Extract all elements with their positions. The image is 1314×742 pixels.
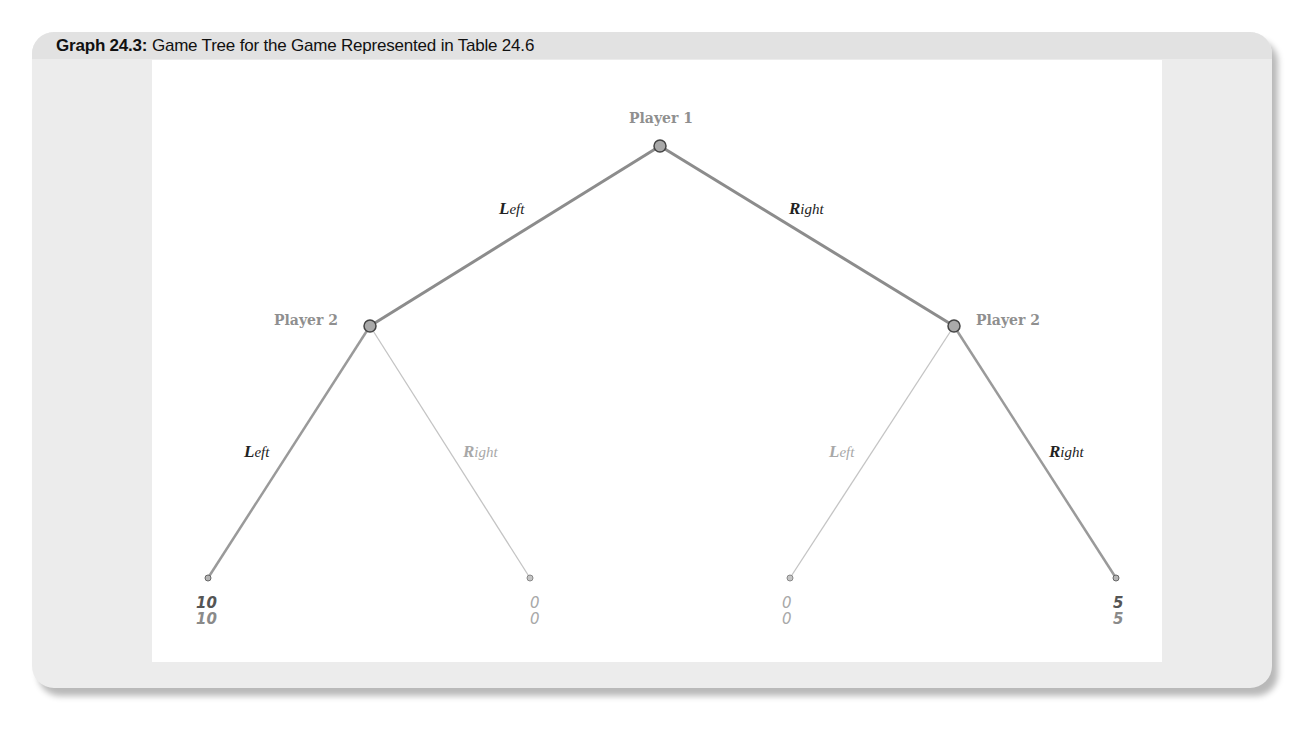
- move-rest: ight: [800, 201, 823, 217]
- payoff-player2: 0: [530, 611, 540, 627]
- branch-right-left: [790, 326, 954, 578]
- branch-left-left: [208, 326, 370, 578]
- move-root-right-label: Right: [789, 199, 824, 219]
- move-initial: R: [789, 199, 800, 218]
- move-left-right-label: Right: [463, 442, 498, 462]
- move-initial: L: [499, 199, 509, 218]
- payoff-player2: 10: [196, 611, 217, 627]
- leaf-left-left: [205, 575, 211, 581]
- move-root-left-label: Left: [499, 199, 524, 219]
- payoff-player1: 0: [530, 595, 540, 611]
- move-left-left-label: Left: [244, 442, 269, 462]
- move-initial: R: [463, 442, 474, 461]
- payoff-player2: 5: [1113, 611, 1123, 627]
- payoff-player1: 10: [196, 595, 217, 611]
- move-initial: L: [829, 442, 839, 461]
- node-player1: [654, 140, 666, 152]
- leaf-right-left: [787, 575, 793, 581]
- payoff-left-left: 10 10: [196, 595, 217, 627]
- move-rest: ight: [1060, 444, 1083, 460]
- player1-label: Player 1: [629, 110, 693, 126]
- payoff-player1: 0: [782, 595, 792, 611]
- player2-right-label: Player 2: [976, 312, 1040, 328]
- leaf-left-right: [527, 575, 533, 581]
- branch-root-left: [370, 146, 660, 326]
- move-rest: eft: [509, 201, 524, 217]
- payoff-right-left: 0 0: [782, 595, 792, 627]
- branch-right-right: [954, 326, 1116, 578]
- node-player2-left: [364, 320, 376, 332]
- branch-left-right: [370, 326, 530, 578]
- move-right-right-label: Right: [1049, 442, 1084, 462]
- leaf-right-right: [1113, 575, 1119, 581]
- move-rest: ight: [474, 444, 497, 460]
- payoff-left-right: 0 0: [530, 595, 540, 627]
- player2-left-label: Player 2: [274, 312, 338, 328]
- branch-root-right: [660, 146, 954, 326]
- move-right-left-label: Left: [829, 442, 854, 462]
- payoff-player2: 0: [782, 611, 792, 627]
- move-initial: R: [1049, 442, 1060, 461]
- move-rest: eft: [839, 444, 854, 460]
- move-rest: eft: [254, 444, 269, 460]
- payoff-right-right: 5 5: [1113, 595, 1123, 627]
- node-player2-right: [948, 320, 960, 332]
- payoff-player1: 5: [1113, 595, 1123, 611]
- move-initial: L: [244, 442, 254, 461]
